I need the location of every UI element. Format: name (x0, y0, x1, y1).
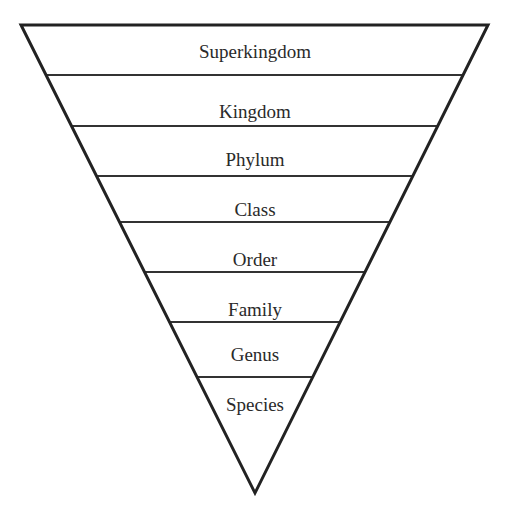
level-labels: Superkingdom Kingdom Phylum Class Order … (199, 41, 311, 415)
level-label-kingdom: Kingdom (219, 101, 291, 122)
level-label-species: Species (226, 394, 284, 415)
level-label-superkingdom: Superkingdom (199, 41, 311, 62)
level-label-phylum: Phylum (225, 149, 284, 170)
level-label-class: Class (234, 199, 275, 220)
taxonomy-pyramid-diagram: Superkingdom Kingdom Phylum Class Order … (0, 0, 505, 524)
level-label-genus: Genus (231, 344, 280, 365)
level-label-order: Order (233, 249, 278, 270)
level-label-family: Family (228, 299, 282, 320)
